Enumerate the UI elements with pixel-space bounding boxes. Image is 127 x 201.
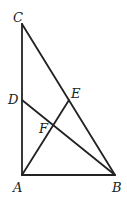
label-d: D [7, 92, 19, 107]
geometry-diagram: C D E F A B [0, 0, 127, 201]
label-e: E [70, 86, 81, 101]
label-b: B [111, 180, 122, 195]
label-f: F [38, 121, 49, 136]
label-a: A [12, 180, 22, 195]
segment-db [22, 100, 115, 175]
label-c: C [13, 10, 23, 25]
segment-ae [22, 100, 69, 175]
